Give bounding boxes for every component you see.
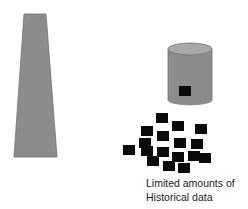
data-point-square xyxy=(123,145,135,155)
data-point-square xyxy=(156,113,168,123)
data-point-square xyxy=(172,121,184,131)
tower-shape xyxy=(14,14,57,157)
data-point-square xyxy=(141,126,153,136)
cylinder-data-square xyxy=(179,86,191,96)
caption-line-2: Historical data xyxy=(146,190,235,204)
data-point-square xyxy=(157,131,169,141)
data-point-square xyxy=(191,139,203,149)
data-point-square xyxy=(199,153,211,163)
data-point-square xyxy=(147,156,159,166)
cylinder-icon xyxy=(168,43,212,105)
data-point-square xyxy=(178,163,190,173)
data-point-square xyxy=(141,146,153,156)
caption: Limited amounts of Historical data xyxy=(146,176,235,204)
data-point-square xyxy=(195,124,207,134)
data-point-square xyxy=(163,161,175,171)
caption-line-1: Limited amounts of xyxy=(146,176,235,190)
data-point-square xyxy=(174,138,186,148)
